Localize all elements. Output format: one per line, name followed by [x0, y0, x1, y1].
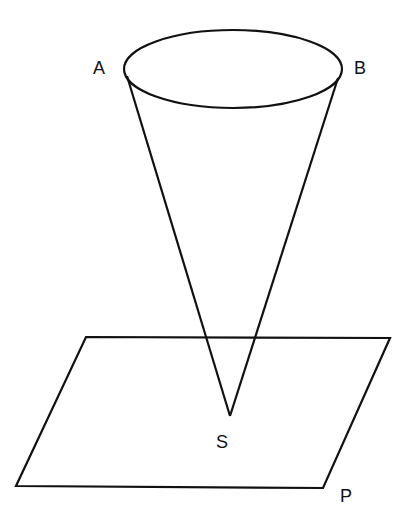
cone-right-generator: [230, 78, 338, 416]
cone-left-generator: [127, 76, 230, 416]
cone-base-ellipse: [124, 30, 342, 108]
label-s: S: [216, 433, 228, 451]
label-p: P: [340, 487, 352, 505]
label-b: B: [354, 59, 366, 77]
plane-p: [16, 337, 390, 488]
cone-plane-diagram: [0, 0, 409, 519]
label-a: A: [93, 59, 105, 77]
